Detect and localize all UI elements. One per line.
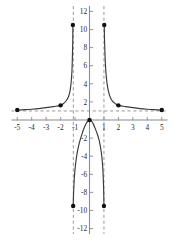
plot-area: -5-4-3-2-11234512108642-2-4-6-8-10-12 <box>0 0 183 249</box>
x-tick-label--1: -1 <box>72 123 78 132</box>
y-tick-label-10: 10 <box>80 25 88 34</box>
data-point-vertex <box>87 118 91 122</box>
y-tick-label--12: -12 <box>77 224 87 233</box>
curve-left-branch <box>17 25 73 110</box>
y-tick-label-6: 6 <box>83 61 87 70</box>
x-tick-label--3: -3 <box>43 123 49 132</box>
rational-function-graph: -5-4-3-2-11234512108642-2-4-6-8-10-12 <box>0 0 183 249</box>
curve-middle-branch <box>73 120 104 206</box>
x-tick-label--4: -4 <box>29 123 35 132</box>
y-tick-label--10: -10 <box>77 206 87 215</box>
y-tick-label-8: 8 <box>83 43 87 52</box>
y-tick-label--8: -8 <box>81 188 87 197</box>
x-tick-label--2: -2 <box>58 123 64 132</box>
data-point-middle-left-bottom <box>71 204 75 208</box>
y-tick-label-12: 12 <box>80 7 88 16</box>
data-point-middle-right-bottom <box>102 204 106 208</box>
data-point-left-mid <box>58 103 62 107</box>
data-point-right-end <box>160 108 164 112</box>
y-tick-label--4: -4 <box>81 152 87 161</box>
x-tick-label-1: 1 <box>102 123 106 132</box>
x-tick-label-5: 5 <box>160 123 164 132</box>
x-tick-label-2: 2 <box>117 123 121 132</box>
data-point-right-top <box>102 23 106 27</box>
y-tick-label--6: -6 <box>81 170 87 179</box>
x-tick-label-3: 3 <box>131 123 135 132</box>
y-tick-label-4: 4 <box>83 80 87 89</box>
data-point-right-mid <box>116 103 120 107</box>
y-tick-label--2: -2 <box>81 134 87 143</box>
data-point-left-end <box>15 108 19 112</box>
y-tick-label-2: 2 <box>83 98 87 107</box>
x-tick-label-4: 4 <box>145 123 149 132</box>
curve-right-branch <box>104 25 162 110</box>
data-point-left-top <box>71 23 75 27</box>
x-tick-label--5: -5 <box>14 123 20 132</box>
